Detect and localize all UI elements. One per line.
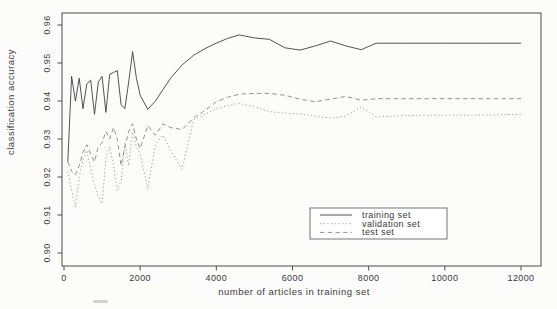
y-tick-label: 0.96 <box>42 15 52 34</box>
plot-area-border <box>62 13 541 266</box>
legend: training setvalidation settest set <box>310 208 447 239</box>
line-chart: 0.900.910.920.930.940.950.96 02000400060… <box>0 0 557 309</box>
x-tick-label: 2000 <box>129 273 151 283</box>
chart-figure: 0.900.910.920.930.940.950.96 02000400060… <box>0 0 557 309</box>
x-tick-label: 10000 <box>431 273 458 283</box>
y-axis-ticks: 0.900.910.920.930.940.950.96 <box>42 15 62 262</box>
y-tick-label: 0.93 <box>42 129 52 148</box>
x-axis-ticks: 020004000600080001000012000 <box>61 266 534 283</box>
y-tick-label: 0.92 <box>42 167 52 186</box>
x-tick-label: 0 <box>61 273 66 283</box>
x-axis-label: number of articles in training set <box>218 286 370 297</box>
x-tick-label: 6000 <box>282 273 304 283</box>
training-set-line <box>68 35 521 162</box>
x-tick-label: 4000 <box>206 273 228 283</box>
y-tick-label: 0.94 <box>42 91 52 110</box>
y-tick-label: 0.90 <box>42 243 52 262</box>
y-axis-label: classification accuracy <box>5 49 16 155</box>
x-tick-label: 8000 <box>358 273 380 283</box>
test-set-line <box>68 93 521 175</box>
data-series <box>68 35 521 208</box>
y-tick-label: 0.91 <box>42 205 52 224</box>
y-tick-label: 0.95 <box>42 53 52 72</box>
x-tick-label: 12000 <box>507 273 534 283</box>
validation-set-line <box>68 103 521 207</box>
legend-label: test set <box>362 227 394 237</box>
caption-fragment <box>93 300 108 303</box>
